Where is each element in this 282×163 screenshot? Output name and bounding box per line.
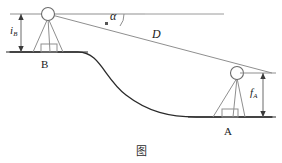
tripod-leg-b-center: [48, 18, 50, 52]
dimension-target-height-a: [240, 73, 276, 117]
label-slope-distance-d: D: [152, 28, 161, 40]
dimension-arrow-fa-top: [260, 73, 265, 79]
figure-container: iB fA α D B A 图: [0, 0, 282, 163]
label-fa-subscript: A: [253, 92, 257, 99]
dimension-instrument-height-b: [18, 14, 23, 52]
diagram-canvas: [0, 0, 282, 163]
angle-arc-alpha: [120, 14, 124, 26]
target-assembly-a: [213, 67, 245, 118]
label-target-height-a: fA: [250, 87, 257, 99]
sight-line-d: [48, 14, 272, 73]
label-instrument-height-b: iB: [10, 25, 17, 37]
dimension-arrow-ib-bottom: [18, 46, 23, 52]
label-station-b: B: [41, 59, 48, 70]
label-station-a: A: [224, 126, 232, 137]
instrument-base-box-b: [41, 44, 57, 52]
theodolite-circle-b: [42, 8, 55, 21]
angle-arc-tick: [105, 22, 108, 25]
tripod-leg-b-right: [48, 18, 63, 52]
dimension-arrow-fa-bottom: [260, 111, 265, 117]
target-base-box-a: [222, 109, 238, 117]
figure-caption: 图: [0, 142, 282, 158]
dimension-arrow-ib-top: [18, 14, 23, 20]
label-vertical-angle-alpha: α: [110, 10, 116, 22]
label-ib-subscript: B: [13, 30, 17, 37]
